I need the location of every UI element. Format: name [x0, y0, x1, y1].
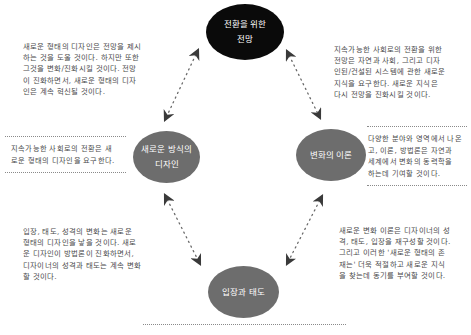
- text-line: 지속가능한 사회로의 전환을 위한: [334, 44, 471, 55]
- text-line: 인은 계속 혁신될 것이다.: [23, 86, 163, 97]
- arrow-left-bottom: [165, 195, 200, 264]
- node-mindset-and-posture: 입장과 태도: [208, 266, 279, 318]
- node-label: 디자인: [155, 157, 179, 172]
- text-line: 하는 것을 도울 것이다. 하지만 또한: [23, 52, 163, 63]
- text-line: 입장, 태도, 성격의 변화는 새로운: [23, 226, 163, 237]
- text-line: 형태의 디자인을 낳을 것이다. 새로: [23, 237, 163, 248]
- bottom-dotted-divider: [143, 324, 346, 325]
- description-bottom-right: 새로운 변화 이론은 디자이너의 성 격, 태도, 입장을 재구성할 것이다. …: [339, 225, 471, 281]
- arrow-right-bottom: [287, 196, 322, 264]
- text-line: 인된/건설된 시스템에 관한 새로운: [334, 66, 471, 77]
- node-label: 새로운 방식의: [141, 142, 192, 157]
- node-label: 입장과 태도: [222, 285, 265, 300]
- node-theories-of-change: 변화의 이론: [296, 129, 366, 181]
- text-line: 할 것이다.: [23, 271, 163, 282]
- description-top-right: 지속가능한 사회로의 전환을 위한 전망은 자연과 사회, 그리고 디자 인된/…: [334, 44, 471, 100]
- text-line: 고, 이론, 방법론은 자연과: [367, 145, 467, 157]
- text-line: 그것을 변화/진화시킬 것이다. 전망: [23, 63, 163, 74]
- description-top-left: 새로운 형태의 디자인은 전망을 제시 하는 것을 도울 것이다. 하지만 또한…: [23, 41, 163, 97]
- text-line: 그리고 이러한 '새로운 형태의 존: [339, 247, 471, 258]
- text-line: 지식을 요구한다. 새로운 지식은: [334, 78, 471, 89]
- text-line: 전망은 자연과 사회, 그리고 디자: [334, 55, 471, 66]
- text-line: 이 진화하면서, 새로운 형태의 디자: [23, 75, 163, 86]
- description-right: 다양한 분야와 영역에서 나온 고, 이론, 방법론은 자연과 세계에서 변화의…: [367, 126, 467, 186]
- arrow-top-right: [287, 51, 320, 118]
- text-line: 다양한 분야와 영역에서 나온: [367, 133, 467, 145]
- text-line: 다시 전망을 진화시킬 것이다.: [334, 89, 471, 100]
- text-line: 지속가능한 사회로의 전환은 새: [5, 143, 126, 155]
- node-vision-for-transition: 전환을 위한 전망: [206, 4, 284, 60]
- description-bottom-left: 입장, 태도, 성격의 변화는 새로운 형태의 디자인을 낳을 것이다. 새로 …: [23, 226, 163, 282]
- node-label: 변화의 이론: [310, 148, 353, 163]
- text-line: 새로운 변화 이론은 디자이너의 성: [339, 225, 471, 236]
- description-left: 지속가능한 사회로의 전환은 새 로운 형태의 디자인을 요구한다.: [5, 136, 126, 173]
- node-label: 전환을 위한: [224, 17, 267, 32]
- text-line: 세계에서 변화의 동력학을: [367, 156, 467, 168]
- text-line: 새로운 형태의 디자인은 전망을 제시: [23, 41, 163, 52]
- text-line: 로운 형태의 디자인을 요구한다.: [5, 155, 126, 167]
- text-line: 운 디자인이 방법론이 진화하면서,: [23, 248, 163, 259]
- node-label: 전망: [237, 32, 253, 47]
- text-line: 격, 태도, 입장을 재구성할 것이다.: [339, 236, 471, 247]
- arrow-top-left: [165, 50, 198, 120]
- node-new-ways-of-designing: 새로운 방식의 디자인: [133, 131, 200, 183]
- text-line: 하는데 기여할 것이다.: [367, 168, 467, 180]
- text-line: 디자이너의 성격과 태도는 계속 변화: [23, 260, 163, 271]
- text-line: 재는' 더욱 적절하고 새로운 지식: [339, 259, 471, 270]
- text-line: 을 찾는데 동기를 부여할 것이다.: [339, 270, 471, 281]
